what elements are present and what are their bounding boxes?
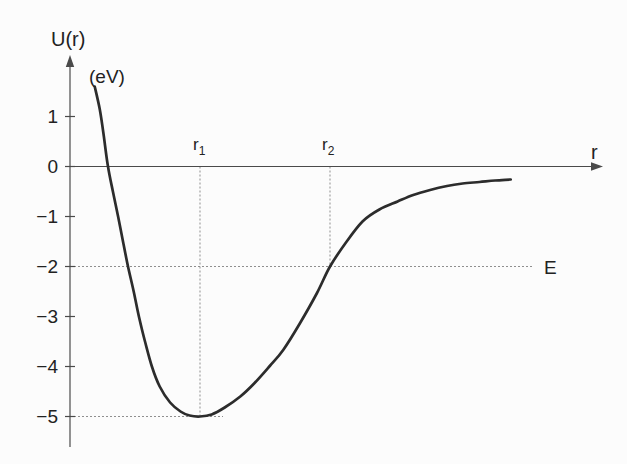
potential-energy-chart: 10−1−2−3−4−5 U(r) (eV) r r1 r2 E xyxy=(0,0,627,464)
y-tick-label: 1 xyxy=(47,106,58,127)
potential-energy-curve xyxy=(95,87,511,417)
x-axis-arrowhead-icon xyxy=(591,162,603,170)
r1-label: r1 xyxy=(193,135,206,158)
energy-level-label: E xyxy=(544,257,557,278)
y-axis-units-label: (eV) xyxy=(89,66,125,87)
y-tick-label: 0 xyxy=(47,156,58,177)
y-tick-label: −1 xyxy=(36,206,58,227)
r2-label: r2 xyxy=(322,135,335,158)
y-tick-label: −4 xyxy=(36,356,58,377)
y-tick-label: −5 xyxy=(36,406,58,427)
potential-energy-figure: 10−1−2−3−4−5 U(r) (eV) r r1 r2 E xyxy=(0,0,627,464)
y-axis-title: U(r) xyxy=(51,28,85,50)
y-tick-label: −3 xyxy=(36,306,58,327)
r2-label-subscript: 2 xyxy=(328,144,335,158)
y-tick-label: −2 xyxy=(36,256,58,277)
x-axis-title: r xyxy=(591,141,598,163)
y-axis-ticks: 10−1−2−3−4−5 xyxy=(36,106,75,427)
y-axis-arrowhead-icon xyxy=(66,55,74,67)
r1-label-subscript: 1 xyxy=(199,144,206,158)
